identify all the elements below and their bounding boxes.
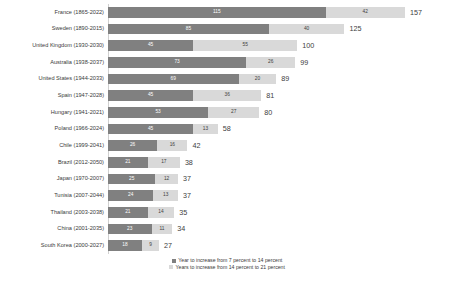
- bar-row: United Kingdom (1930-2030)4555100: [0, 37, 454, 54]
- bar-value-label: 9: [149, 243, 152, 248]
- bar-area: 451358: [108, 121, 454, 138]
- bar-segment-phase-two: 16: [157, 140, 187, 151]
- bar-area: 18927: [108, 237, 454, 254]
- bar-value-label: 21: [125, 210, 130, 215]
- bar-value-label: 42: [363, 10, 368, 15]
- bar-value-label: 13: [203, 127, 208, 132]
- bar-value-label: 23: [127, 227, 132, 232]
- bar-total-label: 157: [410, 9, 422, 16]
- category-label: Brazil (2012-2050): [0, 160, 108, 166]
- bar-row: Japan (1970-2007)251237: [0, 171, 454, 188]
- bar-segment-phase-one: 18: [108, 240, 142, 251]
- bar-row: Sweden (1890-2015)8540125: [0, 21, 454, 38]
- bar-row: Tunisia (2007-2044)241337: [0, 187, 454, 204]
- bar-value-label: 53: [155, 110, 160, 115]
- legend-label: Years to increase from 14 percent to 21 …: [176, 265, 285, 270]
- category-label: Spain (1947-2028): [0, 93, 108, 99]
- category-label: Chile (1999-2041): [0, 143, 108, 149]
- bar-segment-phase-one: 25: [108, 174, 155, 185]
- bar-segment-phase-one: 45: [108, 124, 193, 135]
- bar-row: France (1865-2022)11542157: [0, 4, 454, 21]
- bar-segment-phase-one: 21: [108, 157, 148, 168]
- bar-value-label: 16: [170, 143, 175, 148]
- bar-row: Brazil (2012-2050)211738: [0, 154, 454, 171]
- bar-area: 231134: [108, 221, 454, 238]
- bar-total-label: 99: [300, 59, 308, 66]
- bar-total-label: 89: [281, 75, 289, 82]
- bar-area: 211435: [108, 204, 454, 221]
- bar-area: 4555100: [108, 37, 454, 54]
- bar-segment-phase-two: 40: [269, 24, 345, 35]
- bar-value-label: 115: [213, 10, 221, 15]
- stacked-bar: 692089: [108, 74, 289, 85]
- bar-row: Hungary (1941-2021)532780: [0, 104, 454, 121]
- bar-segment-phase-one: 85: [108, 24, 269, 35]
- plot-area: France (1865-2022)11542157Sweden (1890-2…: [0, 4, 454, 254]
- bar-value-label: 55: [242, 43, 247, 48]
- bar-rows: France (1865-2022)11542157Sweden (1890-2…: [0, 4, 454, 254]
- bar-value-label: 36: [225, 93, 230, 98]
- bar-segment-phase-two: 36: [193, 90, 261, 101]
- category-label: Thailand (2003-2038): [0, 210, 108, 216]
- bar-row: Thailand (2003-2038)211435: [0, 204, 454, 221]
- bar-area: 251237: [108, 171, 454, 188]
- bar-segment-phase-one: 26: [108, 140, 157, 151]
- category-label: Japan (1970-2007): [0, 176, 108, 182]
- bar-segment-phase-two: 17: [148, 157, 180, 168]
- stacked-bar: 251237: [108, 174, 191, 185]
- bar-area: 732699: [108, 54, 454, 71]
- legend-label: Year to increase from 7 percent to 14 pe…: [178, 258, 282, 263]
- bar-total-label: 100: [302, 42, 314, 49]
- bar-area: 241337: [108, 187, 454, 204]
- stacked-bar: 18927: [108, 240, 172, 251]
- bar-segment-phase-one: 53: [108, 107, 208, 118]
- bar-segment-phase-one: 45: [108, 40, 193, 51]
- stacked-bar: 453681: [108, 90, 274, 101]
- stacked-bar: 231134: [108, 224, 185, 235]
- legend-item[interactable]: Years to increase from 14 percent to 21 …: [169, 265, 285, 270]
- bar-total-label: 34: [177, 225, 185, 232]
- stacked-bar: 211435: [108, 207, 187, 218]
- bar-segment-phase-two: 27: [208, 107, 259, 118]
- bar-total-label: 27: [164, 242, 172, 249]
- category-label: China (2001-2035): [0, 226, 108, 232]
- bar-value-label: 11: [159, 227, 164, 232]
- bar-total-label: 37: [183, 175, 191, 182]
- bar-segment-phase-one: 69: [108, 74, 239, 85]
- category-label: Poland (1966-2024): [0, 126, 108, 132]
- bar-segment-phase-two: 11: [152, 224, 173, 235]
- stacked-bar: 241337: [108, 190, 191, 201]
- bar-segment-phase-two: 26: [246, 57, 295, 68]
- bar-segment-phase-two: 42: [326, 7, 405, 18]
- legend-swatch-icon: [169, 265, 173, 269]
- category-label: Hungary (1941-2021): [0, 110, 108, 116]
- bar-area: 261642: [108, 137, 454, 154]
- legend-item[interactable]: Year to increase from 7 percent to 14 pe…: [172, 258, 282, 263]
- bar-row: Australia (1938-2037)732699: [0, 54, 454, 71]
- bar-total-label: 37: [183, 192, 191, 199]
- bar-row: China (2001-2035)231134: [0, 221, 454, 238]
- stacked-bar: 11542157: [108, 7, 422, 18]
- bar-segment-phase-one: 24: [108, 190, 153, 201]
- bar-total-label: 35: [179, 209, 187, 216]
- bar-value-label: 21: [125, 160, 130, 165]
- stacked-bar: 451358: [108, 124, 231, 135]
- bar-row: Spain (1947-2028)453681: [0, 87, 454, 104]
- bar-value-label: 25: [129, 177, 134, 182]
- category-label: Tunisia (2007-2044): [0, 193, 108, 199]
- category-label: France (1865-2022): [0, 10, 108, 16]
- bar-value-label: 85: [186, 27, 191, 32]
- stacked-bar: 211738: [108, 157, 193, 168]
- bar-area: 211738: [108, 154, 454, 171]
- bar-total-label: 125: [349, 25, 361, 32]
- category-label: United Kingdom (1930-2030): [0, 43, 108, 49]
- bar-value-label: 13: [163, 193, 168, 198]
- aging-transition-bar-chart: France (1865-2022)11542157Sweden (1890-2…: [0, 0, 454, 285]
- bar-value-label: 17: [161, 160, 166, 165]
- bar-value-label: 26: [268, 60, 273, 65]
- bar-value-label: 69: [171, 77, 176, 82]
- bar-area: 532780: [108, 104, 454, 121]
- chart-legend: Year to increase from 7 percent to 14 pe…: [0, 258, 454, 270]
- bar-total-label: 80: [264, 109, 272, 116]
- bar-segment-phase-one: 23: [108, 224, 152, 235]
